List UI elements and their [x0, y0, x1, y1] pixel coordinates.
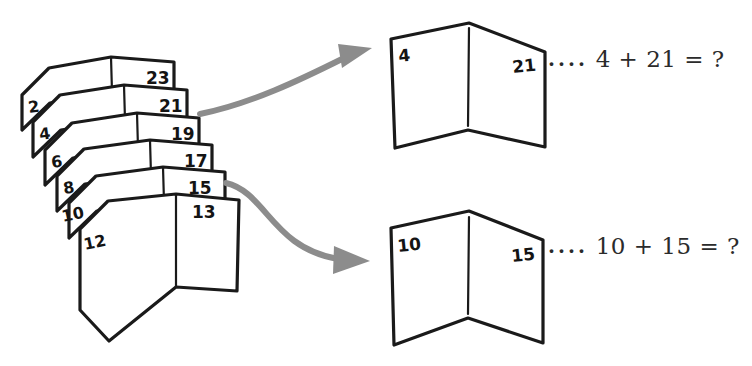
arrow-to-bottom-booklet	[226, 183, 370, 274]
arrow-head-top	[338, 44, 372, 68]
arrow-to-top-booklet	[200, 44, 372, 114]
top-booklet: 4 21	[391, 23, 545, 148]
bottom-booklet: 10 15	[391, 211, 543, 345]
top-booklet-left-number: 4	[397, 45, 411, 66]
top-equation-dots: ....	[548, 47, 588, 71]
top-equation-line: .... 4 + 21 = ?	[548, 46, 725, 72]
figure-canvas: .ink { fill: none; stroke: #1a1a1a; stro…	[0, 0, 752, 366]
stack-booklet-6: 12 13	[80, 194, 239, 341]
bottom-equation-dots: ....	[548, 234, 588, 258]
top-equation-text: 4 + 21 = ?	[596, 46, 725, 72]
arrow-head-bottom	[333, 246, 370, 274]
bottom-booklet-right-number: 15	[510, 244, 536, 266]
bottom-booklet-left-number: 10	[396, 234, 422, 256]
stack-booklet-2-right-number: 21	[159, 96, 183, 116]
bottom-equation-text: 10 + 15 = ?	[596, 233, 740, 259]
stack-booklet-1-right-number: 23	[146, 68, 170, 88]
top-booklet-right-number: 21	[511, 55, 537, 77]
bottom-equation-line: .... 10 + 15 = ?	[548, 233, 740, 259]
stack-booklet-6-right-number: 13	[192, 202, 216, 222]
